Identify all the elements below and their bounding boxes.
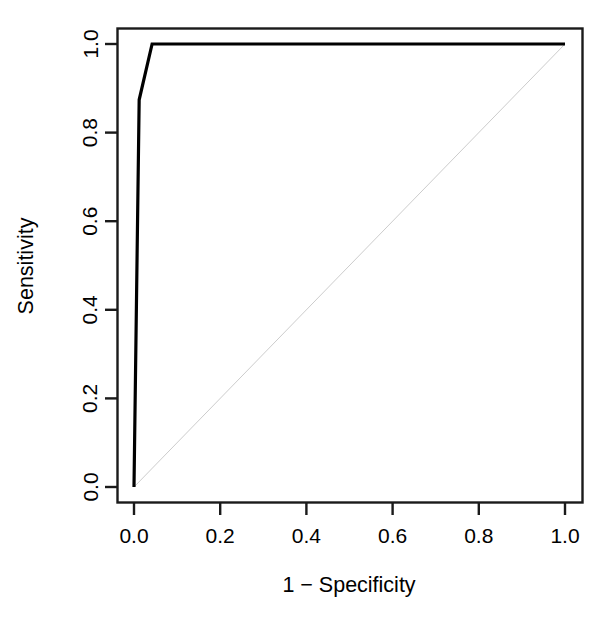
y-tick-label: 0.4: [79, 295, 102, 325]
y-axis-ticks: 0.00.20.40.60.81.0: [79, 29, 118, 501]
y-tick-label: 1.0: [79, 29, 102, 58]
x-tick-label: 0.0: [119, 524, 148, 547]
y-tick-label: 0.0: [79, 472, 102, 501]
x-tick-label: 0.8: [464, 524, 493, 547]
x-axis-ticks: 0.00.20.40.60.81.0: [119, 503, 579, 548]
x-tick-label: 0.2: [206, 524, 235, 547]
x-tick-label: 1.0: [550, 524, 579, 547]
chance-diagonal-line: [134, 44, 565, 487]
roc-plot-svg: 0.00.20.40.60.81.0 0.00.20.40.60.81.0 1 …: [0, 0, 611, 617]
y-tick-label: 0.2: [79, 384, 102, 413]
roc-chart-figure: 0.00.20.40.60.81.0 0.00.20.40.60.81.0 1 …: [0, 0, 611, 617]
x-tick-label: 0.4: [292, 524, 322, 547]
x-axis-title: 1 − Specificity: [282, 573, 415, 597]
x-tick-label: 0.6: [378, 524, 407, 547]
y-axis-title: Sensitivity: [14, 217, 38, 314]
y-tick-label: 0.6: [79, 207, 102, 236]
y-tick-label: 0.8: [79, 118, 102, 147]
